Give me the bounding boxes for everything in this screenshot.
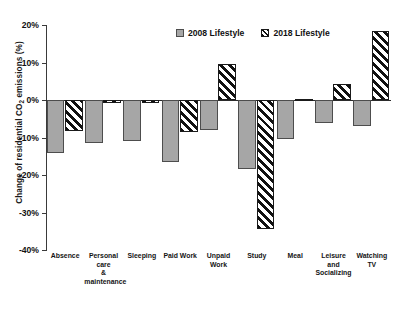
emissions-bar-chart: Change of residential CO2 emissions (%) …	[0, 0, 401, 310]
x-axis-label-line: Personal care	[84, 252, 122, 269]
bar-2008	[353, 100, 371, 126]
x-axis-label: Unpaid Work	[199, 252, 237, 269]
bar-fill	[142, 100, 160, 103]
bar-2018	[218, 64, 236, 100]
bar-group	[238, 25, 276, 250]
bar-2008	[47, 100, 65, 153]
x-axis-label: Study	[238, 252, 276, 261]
bar-2008	[277, 100, 295, 139]
x-axis-label-line: &	[84, 269, 122, 278]
bar-fill	[333, 84, 351, 100]
plot-area: 20%10%0%-10%-20%-30%-40%	[46, 25, 391, 250]
bar-2018	[65, 100, 83, 131]
bar-2008	[315, 100, 333, 123]
x-axis-label-line: Socializing	[314, 269, 352, 278]
x-axis-label-line: Unpaid Work	[199, 252, 237, 269]
bar-group	[276, 25, 314, 250]
y-axis-title-prefix: Change of residential CO	[15, 104, 24, 204]
x-axis-label-line: Paid Work	[161, 252, 199, 261]
bar-fill	[353, 100, 371, 126]
bar-fill	[180, 100, 198, 132]
y-tick-label: 0%	[27, 95, 39, 105]
x-axis-label-line: maintenance	[84, 278, 122, 287]
bar-2018	[295, 99, 313, 100]
x-axis-label: Watching TV	[353, 252, 391, 269]
x-axis-label: Leisure andSocializing	[314, 252, 352, 278]
y-axis-title: Change of residential CO2 emissions (%)	[15, 8, 24, 238]
x-axis-label-line: Meal	[276, 252, 314, 261]
x-axis-label-line: Leisure and	[314, 252, 352, 269]
bar-fill	[277, 100, 295, 139]
bar-series-container	[46, 25, 391, 250]
bar-fill	[238, 100, 256, 169]
bar-2018	[257, 100, 275, 229]
bar-fill	[295, 99, 313, 101]
bar-2018	[180, 100, 198, 132]
bar-fill	[47, 100, 65, 153]
bar-group	[161, 25, 199, 250]
bar-fill	[103, 100, 121, 103]
y-tick-label: 20%	[22, 20, 39, 30]
x-axis-label-line: Sleeping	[123, 252, 161, 261]
bar-fill	[315, 100, 333, 123]
bar-2018	[142, 100, 160, 103]
bar-fill	[257, 100, 275, 229]
bar-group	[199, 25, 237, 250]
bar-group	[123, 25, 161, 250]
x-axis-label: Personal care&maintenance	[84, 252, 122, 286]
y-tick-label: -20%	[19, 170, 39, 180]
y-tick-label: -30%	[19, 208, 39, 218]
bar-fill	[85, 100, 103, 143]
x-axis-label: Absence	[46, 252, 84, 261]
bar-2008	[85, 100, 103, 143]
x-axis-labels: AbsencePersonal care&maintenanceSleeping…	[46, 252, 391, 304]
y-tick-label: 10%	[22, 58, 39, 68]
bar-fill	[372, 31, 390, 100]
bar-2008	[162, 100, 180, 162]
bar-fill	[65, 100, 83, 131]
y-tick	[42, 250, 47, 251]
bar-group	[353, 25, 391, 250]
bar-2008	[123, 100, 141, 141]
bar-2008	[200, 100, 218, 130]
x-axis-label: Meal	[276, 252, 314, 261]
x-axis-label-line: Study	[238, 252, 276, 261]
bar-2018	[372, 31, 390, 100]
bar-fill	[218, 64, 236, 100]
bar-fill	[123, 100, 141, 141]
bar-group	[46, 25, 84, 250]
bar-fill	[162, 100, 180, 162]
y-axis-title-suffix: emissions (%)	[15, 41, 24, 100]
bar-2018	[333, 84, 351, 100]
bar-2018	[103, 100, 121, 103]
bar-group	[314, 25, 352, 250]
bar-2008	[238, 100, 256, 169]
bar-group	[84, 25, 122, 250]
x-axis-label-line: Watching TV	[353, 252, 391, 269]
y-tick-label: -40%	[19, 245, 39, 255]
x-axis-label: Paid Work	[161, 252, 199, 261]
bar-fill	[200, 100, 218, 130]
x-axis-label: Sleeping	[123, 252, 161, 261]
y-tick-label: -10%	[19, 133, 39, 143]
y-axis-title-subscript: 2	[17, 100, 24, 104]
x-axis-label-line: Absence	[46, 252, 84, 261]
